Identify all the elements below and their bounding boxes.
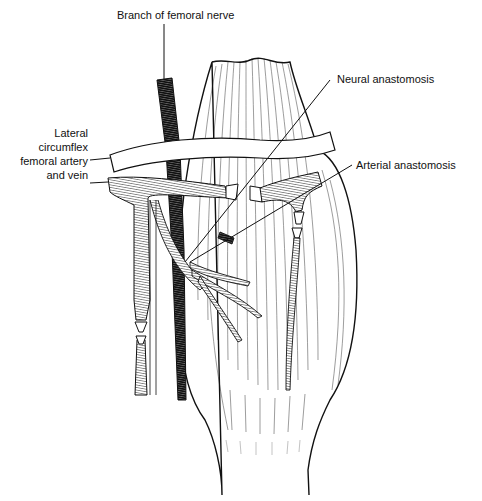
muscle-body [179,58,357,495]
label-line-1: Lateral [0,126,88,140]
label-line-2: circumflex [0,140,88,154]
label-femoral-nerve: Branch of femoral nerve [117,8,234,22]
label-neural-anastomosis: Neural anastomosis [337,72,434,86]
label-lateral-circumflex: Lateral circumflex femoral artery and ve… [0,126,88,182]
label-line-4: and vein [0,168,88,182]
label-line-3: femoral artery [0,154,88,168]
label-arterial-anastomosis: Arterial anastomosis [356,158,456,172]
anatomical-diagram: Branch of femoral nerve Neural anastomos… [0,0,482,501]
